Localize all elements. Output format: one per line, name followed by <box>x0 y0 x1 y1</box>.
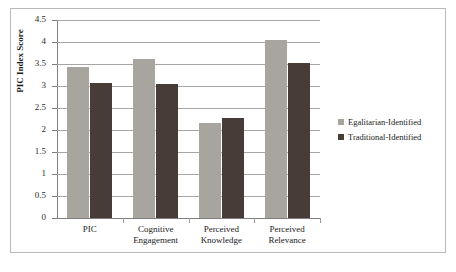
y-tick-label: 4 <box>42 37 47 46</box>
bar <box>265 40 287 218</box>
bar <box>199 123 221 218</box>
y-tick-label: 2.5 <box>35 103 46 112</box>
legend-label: Traditional-Identified <box>348 132 421 142</box>
figure-canvas: PIC Index Score 00.511.522.533.544.5 PIC… <box>0 0 456 272</box>
y-tick-label: 0.5 <box>35 191 46 200</box>
legend-label: Egalitarian-Identified <box>348 117 421 127</box>
x-axis-category-label: Perceived Relevance <box>254 224 320 246</box>
y-tick-label: 1 <box>42 169 47 178</box>
bar <box>288 63 310 218</box>
x-axis-separator-tick <box>189 218 190 223</box>
y-tick-label: 4.5 <box>35 15 46 24</box>
bar <box>67 67 89 218</box>
x-axis-category-label: Perceived Knowledge <box>189 224 255 246</box>
x-axis-separator-tick <box>123 218 124 223</box>
y-tick-label: 0 <box>42 213 47 222</box>
bar <box>133 59 155 218</box>
gridline <box>57 20 320 21</box>
bar <box>156 84 178 218</box>
y-axis-title: PIC Index Score <box>15 11 25 111</box>
legend: Egalitarian-IdentifiedTraditional-Identi… <box>338 117 442 147</box>
legend-item[interactable]: Egalitarian-Identified <box>338 117 442 127</box>
y-tick-label: 2 <box>42 125 47 134</box>
bar <box>90 83 112 218</box>
bar <box>222 118 244 218</box>
y-tick-label: 3 <box>42 81 47 90</box>
y-tick-label: 3.5 <box>35 59 46 68</box>
x-axis-category-label: Cognitive Engagement <box>123 224 189 246</box>
legend-swatch-icon <box>338 134 344 140</box>
plot-area <box>57 20 320 218</box>
x-axis-category-label: PIC <box>57 224 123 235</box>
legend-item[interactable]: Traditional-Identified <box>338 132 442 142</box>
y-tick-label: 1.5 <box>35 147 46 156</box>
legend-swatch-icon <box>338 119 344 125</box>
x-axis-separator-tick <box>320 218 321 223</box>
x-axis-separator-tick <box>254 218 255 223</box>
